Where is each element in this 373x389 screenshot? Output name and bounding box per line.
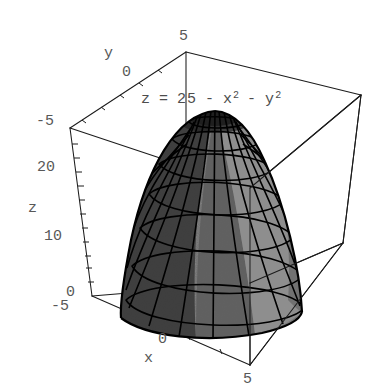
x-axis-label: x <box>144 350 153 367</box>
z-axis-tick-20: 20 <box>37 159 55 176</box>
title-term2-exponent: 2 <box>275 90 282 101</box>
title-eq: = <box>159 91 169 108</box>
x-axis-tick-0: 0 <box>158 331 167 348</box>
y-axis-label: y <box>104 45 113 62</box>
title-term2-base: y <box>265 91 275 108</box>
title-term1-base: x <box>223 91 233 108</box>
title-const: 25 <box>177 91 197 108</box>
y-axis-tick-5: 5 <box>179 28 188 45</box>
z-axis-tick-10: 10 <box>44 228 62 245</box>
title-minus-2: - <box>247 91 257 108</box>
title-minus-1: - <box>205 91 215 108</box>
title-lhs: z <box>141 91 151 108</box>
plot-canvas: z=25-x2-y2 y 0 5 -5 z 20 10 0 x -5 0 5 <box>0 0 373 389</box>
z-axis-label: z <box>28 200 37 217</box>
y-axis-tick-neg5: -5 <box>36 113 54 130</box>
title-term1-exponent: 2 <box>233 90 240 101</box>
surface-plot-figure: z=25-x2-y2 y 0 5 -5 z 20 10 0 x -5 0 5 <box>0 0 373 389</box>
x-axis-tick-5: 5 <box>243 371 252 388</box>
x-axis-tick-neg5: -5 <box>51 298 69 315</box>
y-axis-tick-0: 0 <box>122 64 131 81</box>
